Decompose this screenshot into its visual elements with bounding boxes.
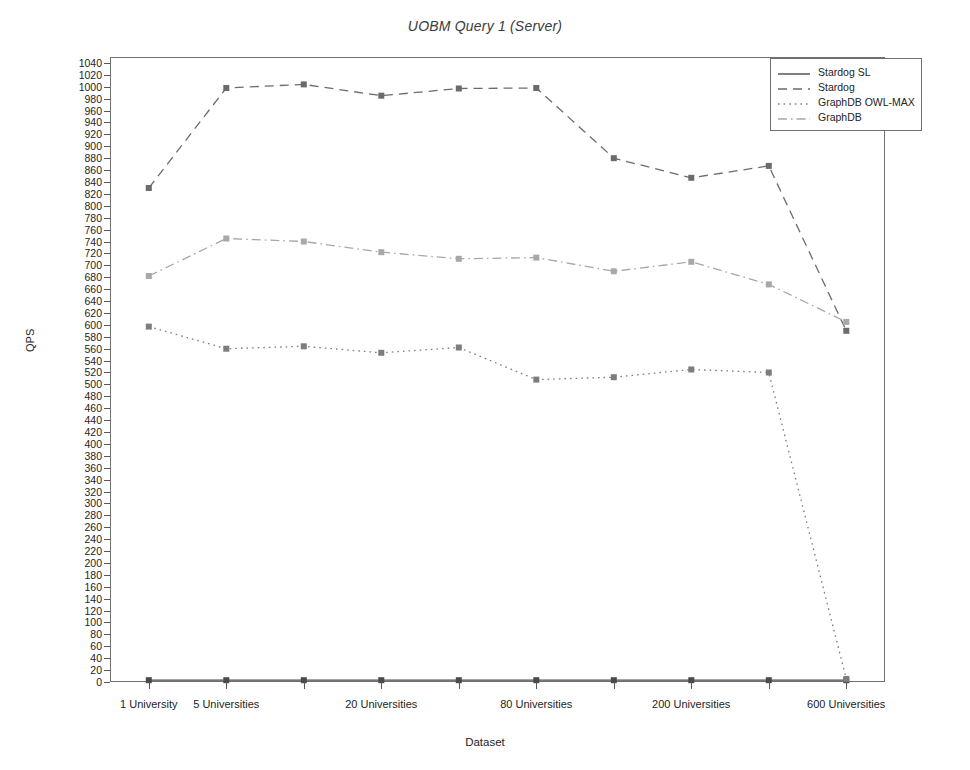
y-tick-mark <box>104 361 110 362</box>
data-point-marker <box>533 255 539 261</box>
y-tick-label: 740 <box>60 237 102 247</box>
y-tick-mark <box>104 122 110 123</box>
y-tick-mark <box>104 111 110 112</box>
legend-label: GraphDB OWL-MAX <box>818 96 915 108</box>
data-point-marker <box>301 239 307 245</box>
y-tick-mark <box>104 372 110 373</box>
y-tick-mark <box>104 313 110 314</box>
y-tick-label: 960 <box>60 106 102 116</box>
series-graphdb <box>146 236 850 325</box>
chart-container: UOBM Query 1 (Server) QPS Dataset 020406… <box>0 0 970 770</box>
y-tick-mark <box>104 432 110 433</box>
y-tick-mark <box>104 277 110 278</box>
data-point-marker <box>146 185 152 191</box>
y-tick-label: 0 <box>60 677 102 687</box>
y-tick-mark <box>104 420 110 421</box>
data-point-marker <box>378 350 384 356</box>
legend-item[interactable]: Stardog <box>777 79 915 94</box>
x-tick-label: 200 Universities <box>652 698 730 710</box>
y-tick-label: 1000 <box>60 82 102 92</box>
y-tick-mark <box>104 384 110 385</box>
x-tick-mark <box>846 682 847 689</box>
data-point-marker <box>533 377 539 383</box>
data-point-marker <box>223 85 229 91</box>
y-tick-label: 900 <box>60 141 102 151</box>
y-tick-label: 840 <box>60 177 102 187</box>
y-tick-mark <box>104 75 110 76</box>
legend-item[interactable]: GraphDB <box>777 109 915 124</box>
data-point-marker <box>456 345 462 351</box>
data-point-marker <box>301 343 307 349</box>
y-tick-label: 460 <box>60 403 102 413</box>
y-tick-mark <box>104 551 110 552</box>
y-tick-label: 200 <box>60 558 102 568</box>
y-tick-label: 520 <box>60 367 102 377</box>
y-axis-title: QPS <box>24 329 36 352</box>
y-tick-label: 560 <box>60 344 102 354</box>
y-tick-label: 800 <box>60 201 102 211</box>
chart-title: UOBM Query 1 (Server) <box>0 18 970 34</box>
y-tick-mark <box>104 670 110 671</box>
data-point-marker <box>766 370 772 376</box>
y-tick-mark <box>104 194 110 195</box>
y-tick-label: 360 <box>60 463 102 473</box>
series-graphdb-owl-max <box>146 324 850 682</box>
x-tick-label: 600 Universities <box>807 698 885 710</box>
y-tick-mark <box>104 611 110 612</box>
x-tick-mark <box>149 682 150 689</box>
y-tick-mark <box>104 289 110 290</box>
data-point-marker <box>378 93 384 99</box>
y-tick-label: 320 <box>60 487 102 497</box>
x-tick-mark <box>304 682 305 689</box>
x-tick-label: 20 Universities <box>345 698 417 710</box>
y-tick-label: 720 <box>60 248 102 258</box>
data-point-marker <box>378 249 384 255</box>
legend-line-swatch <box>777 111 811 123</box>
y-tick-label: 180 <box>60 570 102 580</box>
data-point-marker <box>843 319 849 325</box>
y-tick-label: 160 <box>60 582 102 592</box>
legend-label: GraphDB <box>818 111 862 123</box>
y-tick-label: 400 <box>60 439 102 449</box>
y-tick-mark <box>104 301 110 302</box>
y-tick-label: 540 <box>60 356 102 366</box>
x-tick-label: 1 University <box>120 698 177 710</box>
x-tick-label: 5 Universities <box>193 698 259 710</box>
y-tick-mark <box>104 444 110 445</box>
x-tick-label: 80 Universities <box>500 698 572 710</box>
series-stardog-sl <box>146 677 850 683</box>
y-tick-label: 80 <box>60 629 102 639</box>
y-tick-mark <box>104 146 110 147</box>
y-tick-label: 680 <box>60 272 102 282</box>
y-tick-mark <box>104 480 110 481</box>
y-tick-mark <box>104 206 110 207</box>
series-line <box>149 239 847 322</box>
chart-legend: Stardog SLStardogGraphDB OWL-MAXGraphDB <box>770 58 922 131</box>
y-tick-label: 920 <box>60 129 102 139</box>
data-point-marker <box>456 256 462 262</box>
data-point-marker <box>223 236 229 242</box>
y-tick-mark <box>104 563 110 564</box>
data-point-marker <box>766 281 772 287</box>
y-tick-mark <box>104 575 110 576</box>
y-tick-label: 700 <box>60 260 102 270</box>
y-tick-label: 480 <box>60 391 102 401</box>
y-tick-mark <box>104 468 110 469</box>
x-tick-mark <box>769 682 770 689</box>
y-tick-mark <box>104 646 110 647</box>
data-point-marker <box>456 86 462 92</box>
y-tick-label: 20 <box>60 665 102 675</box>
y-tick-label: 420 <box>60 427 102 437</box>
series-stardog <box>146 81 850 333</box>
legend-label: Stardog <box>818 81 855 93</box>
y-tick-mark <box>104 599 110 600</box>
x-tick-mark <box>459 682 460 689</box>
legend-item[interactable]: Stardog SL <box>777 64 915 79</box>
y-tick-mark <box>104 134 110 135</box>
legend-item[interactable]: GraphDB OWL-MAX <box>777 94 915 109</box>
x-axis-title: Dataset <box>0 736 970 748</box>
y-tick-mark <box>104 492 110 493</box>
y-tick-mark <box>104 158 110 159</box>
y-tick-mark <box>104 87 110 88</box>
y-tick-label: 880 <box>60 153 102 163</box>
